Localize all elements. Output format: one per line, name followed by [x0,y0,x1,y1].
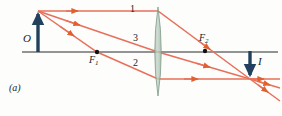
focal-point-f2-label: F2 [199,33,209,45]
figure-caption: (a) [9,83,21,93]
focal-point-f1-label: F1 [89,55,99,67]
object-label: O [23,33,31,44]
focal-point-f1-subscript: 1 [95,59,99,67]
focal-point-f2-subscript: 2 [205,37,209,45]
optics-ray-diagram-figure: O I F1 F2 1 3 2 (a) [0,0,282,116]
focal-point-f1-dot [95,50,99,54]
ray-3-label: 3 [133,33,138,43]
diagram-canvas [0,0,282,116]
ray-2-label: 2 [133,58,138,68]
converging-lens [155,7,162,96]
image-label: I [258,56,262,67]
focal-point-f2-dot [203,49,207,53]
ray-1-label: 1 [130,4,135,14]
